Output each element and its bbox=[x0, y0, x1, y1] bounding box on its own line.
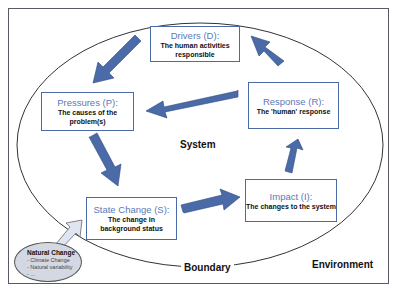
drivers-description: The human activities responsible bbox=[151, 41, 239, 59]
natural-change-title: Natural Change bbox=[27, 249, 81, 257]
state-change-title: State Change (S): bbox=[87, 204, 176, 215]
pressures-description: The causes of the problem(s) bbox=[42, 108, 133, 126]
environment-label: Environment bbox=[312, 259, 373, 270]
response-box: Response (R): The 'human' response bbox=[248, 82, 339, 129]
arrow-state-to-impact bbox=[181, 189, 240, 213]
state-change-box: State Change (S): The change in backgrou… bbox=[86, 197, 177, 240]
impact-box: Impact (I): The changes to the system bbox=[245, 179, 337, 222]
system-label: System bbox=[180, 139, 216, 150]
arrow-response-to-pressures bbox=[146, 90, 238, 118]
drivers-title: Drivers (D): bbox=[151, 30, 239, 41]
arrow-pressures-to-state bbox=[89, 133, 121, 186]
natural-change-ellipse: Natural Change - Climate Change - Natura… bbox=[14, 242, 82, 282]
natural-change-item: - Natural variability bbox=[27, 264, 81, 271]
pressures-title: Pressures (P): bbox=[42, 97, 133, 108]
drivers-box: Drivers (D): The human activities respon… bbox=[150, 26, 240, 62]
response-description: The 'human' response bbox=[249, 107, 338, 116]
impact-description: The changes to the system bbox=[246, 202, 336, 211]
state-change-description: The change in background status bbox=[87, 215, 176, 233]
response-title: Response (R): bbox=[249, 96, 338, 107]
natural-change-item: - Climate Change bbox=[27, 257, 81, 264]
pressures-box: Pressures (P): The causes of the problem… bbox=[41, 92, 134, 131]
impact-title: Impact (I): bbox=[246, 191, 336, 202]
boundary-label: Boundary bbox=[181, 262, 234, 273]
natural-change-item: - ... bbox=[27, 271, 81, 278]
arrow-impact-to-response bbox=[285, 139, 303, 173]
arrow-response-to-drivers bbox=[251, 36, 284, 66]
